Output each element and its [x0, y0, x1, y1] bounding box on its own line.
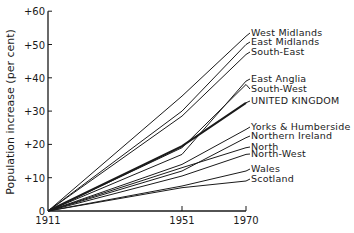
series-line: [48, 138, 246, 211]
series-label: South-East: [251, 46, 305, 57]
label-leader: [246, 101, 250, 103]
series-label: Northern Ireland: [251, 130, 332, 141]
label-leader: [246, 52, 250, 54]
label-leader: [246, 179, 250, 181]
series-line: [48, 55, 246, 212]
label-leader: [246, 169, 250, 171]
label-leader: [246, 79, 250, 81]
y-tick-label: +50: [24, 40, 45, 51]
y-tick-label: +10: [24, 173, 45, 184]
series-lines: [48, 36, 246, 211]
series-line: [48, 148, 246, 211]
y-axis-label: Population increase (per cent): [4, 29, 17, 195]
series-label: South-West: [251, 83, 307, 94]
series-label: Scotland: [251, 173, 294, 184]
axes: 0+10+20+30+40+50+60191119511970: [24, 6, 259, 226]
y-tick-label: +20: [24, 139, 45, 150]
x-tick-label: 1951: [169, 215, 194, 226]
label-leader: [246, 136, 250, 138]
label-leader: [246, 147, 250, 148]
population-line-chart: 0+10+20+30+40+50+60191119511970 West Mid…: [0, 0, 354, 233]
label-leader: [246, 42, 250, 45]
label-leader: [246, 127, 250, 129]
y-tick-label: +60: [24, 6, 45, 17]
x-tick-label: 1970: [233, 215, 258, 226]
label-leader: [246, 33, 250, 36]
series-label: UNITED KINGDOM: [251, 95, 339, 106]
label-leader: [246, 84, 250, 89]
x-tick-label: 1911: [35, 215, 60, 226]
y-tick-label: +40: [24, 73, 45, 84]
y-tick-label: +30: [24, 106, 45, 117]
series-label: North-West: [251, 148, 306, 159]
series-labels: West MidlandsEast MidlandsSouth-EastEast…: [246, 27, 350, 184]
